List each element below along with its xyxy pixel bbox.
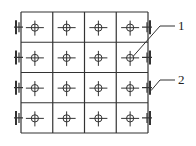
panel-grid-diagram: 12 xyxy=(0,0,196,146)
left-bracket-icon xyxy=(14,111,23,125)
callout-label: 2 xyxy=(178,72,185,87)
callout-2: 2 xyxy=(151,72,185,91)
crosshair-circle-icon xyxy=(121,81,139,96)
crosshair-circle-icon xyxy=(89,21,107,36)
center-symbols xyxy=(26,21,139,127)
left-bracket-icon xyxy=(14,50,23,64)
crosshair-circle-icon xyxy=(26,21,44,36)
crosshair-circle-icon xyxy=(26,51,44,66)
crosshair-circle-icon xyxy=(58,81,76,96)
crosshair-circle-icon xyxy=(121,21,139,36)
crosshair-circle-icon xyxy=(89,111,107,126)
crosshair-circle-icon xyxy=(26,111,44,126)
right-bracket-icon xyxy=(142,50,152,64)
crosshair-circle-icon xyxy=(26,81,44,96)
right-bracket-icon xyxy=(142,81,152,95)
left-bracket-icon xyxy=(14,81,23,95)
right-bracket-icon xyxy=(142,111,152,125)
callout-label: 1 xyxy=(178,18,185,33)
right-bracket-icon xyxy=(142,20,152,34)
crosshair-circle-icon xyxy=(58,111,76,126)
left-bracket-icon xyxy=(14,20,23,34)
leader-line xyxy=(133,26,175,56)
crosshair-circle-icon xyxy=(58,51,76,66)
crosshair-circle-icon xyxy=(89,81,107,96)
callouts: 12 xyxy=(133,18,184,91)
leader-line xyxy=(151,80,175,91)
crosshair-circle-icon xyxy=(58,21,76,36)
callout-1: 1 xyxy=(133,18,184,56)
crosshair-circle-icon xyxy=(89,51,107,66)
crosshair-circle-icon xyxy=(121,111,139,126)
